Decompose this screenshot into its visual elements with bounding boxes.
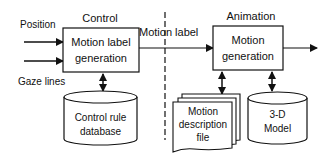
motion-generation-line2: generation — [222, 50, 274, 62]
control-section-label: Control — [82, 12, 117, 24]
motion-label-generation-line1: Motion label — [71, 36, 130, 48]
model-3d-line1: 3-D — [269, 109, 285, 120]
motion-description-file-line1: Motion — [188, 106, 218, 117]
model-3d-line2: Model — [264, 123, 291, 134]
motion-description-file-line3: file — [197, 132, 210, 143]
motion-description-file-line2: description — [179, 119, 227, 130]
gaze-lines-input-label: Gaze lines — [18, 76, 65, 87]
animation-section-label: Animation — [227, 10, 276, 22]
motion-label-connector-label: Motion label — [139, 26, 198, 38]
motion-generation-line1: Motion — [231, 34, 264, 46]
control-rule-database-line2: database — [80, 126, 122, 137]
motion-label-generation-box — [63, 28, 139, 72]
motion-generation-box — [213, 26, 283, 70]
control-rule-database-line1: Control rule — [75, 112, 127, 123]
system-diagram: Control Animation Position Gaze lines Mo… — [0, 0, 332, 159]
motion-label-generation-line2: generation — [75, 52, 127, 64]
position-input-label: Position — [20, 19, 56, 30]
